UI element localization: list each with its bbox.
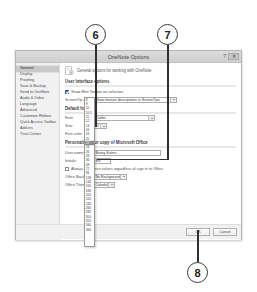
pane-header-text: General options for working with OneNote… — [77, 65, 152, 73]
font-size-dropdown-list[interactable]: 8 9 10 10.5 11 12 14 16 18 20 22 24 26 2… — [84, 97, 95, 247]
chevron-down-icon[interactable] — [148, 116, 154, 120]
callout-7-leader-vertical — [167, 45, 169, 160]
office-theme-value: Colorful — [94, 182, 108, 187]
pane-header: General options for working with OneNote… — [65, 66, 236, 75]
office-background-dropdown[interactable]: No Background — [93, 174, 127, 180]
cancel-button[interactable]: Cancel — [213, 228, 237, 236]
options-main-pane: General options for working with OneNote… — [60, 63, 241, 240]
office-theme-dropdown[interactable]: Colorful — [93, 182, 115, 188]
dialog-titlebar[interactable]: OneNote Options ? ✕ — [16, 51, 241, 63]
office-background-value: No Background — [94, 174, 120, 179]
chevron-down-icon[interactable] — [170, 98, 176, 102]
mini-toolbar-label: Show Mini Toolbar on selection — [71, 89, 123, 94]
callout-8-leader — [197, 230, 199, 262]
chevron-down-icon[interactable] — [108, 183, 114, 187]
close-button[interactable]: ✕ — [228, 53, 239, 61]
cancel-button-label: Cancel — [219, 230, 230, 235]
ui-options-section-title: User Interface options — [65, 78, 236, 86]
mini-toolbar-row: Show Mini Toolbar on selection — [65, 89, 236, 95]
sidebar-item-trust-center[interactable]: Trust Center — [16, 131, 59, 138]
screentip-style-dropdown[interactable]: Show feature descriptions in ScreenTips — [93, 97, 177, 103]
options-sidebar: General Display Proofing Save & Backup S… — [16, 63, 60, 240]
username-value: Bossy Suites — [96, 150, 117, 155]
chevron-down-icon[interactable] — [100, 124, 106, 128]
onenote-options-dialog: OneNote Options ? ✕ General Display Proo… — [15, 50, 242, 240]
username-input[interactable]: Bossy Suites — [93, 150, 161, 156]
chevron-down-icon[interactable] — [120, 175, 126, 179]
titlebar-buttons: ? ✕ — [223, 53, 239, 61]
callout-8: 8 — [187, 262, 208, 283]
font-size-option[interactable]: 360 — [85, 228, 94, 233]
font-dropdown[interactable]: Calibri — [93, 115, 155, 121]
callout-6-leader — [95, 45, 97, 127]
help-button[interactable]: ? — [223, 53, 226, 59]
callout-7-leader-horizontal — [97, 159, 168, 161]
callout-6: 6 — [85, 24, 106, 45]
dialog-body: General Display Proofing Save & Backup S… — [16, 63, 241, 240]
callout-7: 7 — [157, 24, 178, 45]
dialog-button-bar: OK Cancel — [16, 224, 241, 239]
dialog-title: OneNote Options — [108, 53, 150, 59]
gear-icon — [65, 66, 74, 75]
mini-toolbar-checkbox[interactable] — [65, 90, 69, 94]
screentip-style-value: Show feature descriptions in ScreenTips — [94, 97, 160, 102]
always-use-values-checkbox[interactable] — [65, 167, 69, 171]
